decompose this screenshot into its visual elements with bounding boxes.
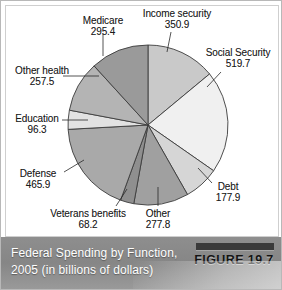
badge-rule xyxy=(196,243,274,250)
pie-label-veterans-benefits: Veterans benefits 68.2 xyxy=(42,209,134,230)
pie-label-education: Education 96.3 xyxy=(9,114,65,135)
pie-label-education-value: 96.3 xyxy=(9,125,65,136)
pie-label-debt: Debt 177.9 xyxy=(207,182,249,203)
pie-label-other-value: 277.8 xyxy=(137,220,179,231)
pie-label-medicare-value: 295.4 xyxy=(72,27,134,38)
pie-label-other-health-value: 257.5 xyxy=(10,77,74,88)
pie-label-other-text: Other xyxy=(146,208,171,219)
pie-label-defense: Defense 465.9 xyxy=(12,169,64,190)
figure-caption-bar: Federal Spending by Function, 2005 (in b… xyxy=(1,237,282,290)
pie-label-medicare: Medicare 295.4 xyxy=(72,16,134,37)
pie-label-other-health: Other health 257.5 xyxy=(10,66,74,87)
pie-label-veterans-benefits-value: 68.2 xyxy=(42,220,134,231)
figure-container: Medicare 295.4 Income security 350.9 Soc… xyxy=(0,0,282,290)
pie-label-income-security-text: Income security xyxy=(143,8,212,19)
pie-label-medicare-text: Medicare xyxy=(83,15,123,26)
pie-label-income-security: Income security 350.9 xyxy=(134,9,220,30)
pie-label-veterans-benefits-text: Veterans benefits xyxy=(50,208,126,219)
pie-label-debt-text: Debt xyxy=(218,181,239,192)
pie-label-income-security-value: 350.9 xyxy=(134,20,220,31)
pie-label-debt-value: 177.9 xyxy=(207,193,249,204)
pie-label-education-text: Education xyxy=(15,113,59,124)
pie-chart: Medicare 295.4 Income security 350.9 Soc… xyxy=(5,5,279,237)
pie-label-other: Other 277.8 xyxy=(137,209,179,230)
pie-label-defense-value: 465.9 xyxy=(12,180,64,191)
figure-number-badge: FIGURE 19.7 xyxy=(192,243,276,267)
pie-label-social-security-text: Social Security xyxy=(206,47,271,58)
pie-label-social-security-value: 519.7 xyxy=(196,59,279,70)
figure-caption-text: Federal Spending by Function, 2005 (in b… xyxy=(11,245,196,278)
figure-number-label: FIGURE 19.7 xyxy=(192,253,276,267)
pie-label-other-health-text: Other health xyxy=(15,65,69,76)
pie-label-defense-text: Defense xyxy=(20,168,57,179)
pie-label-social-security: Social Security 519.7 xyxy=(196,48,279,69)
